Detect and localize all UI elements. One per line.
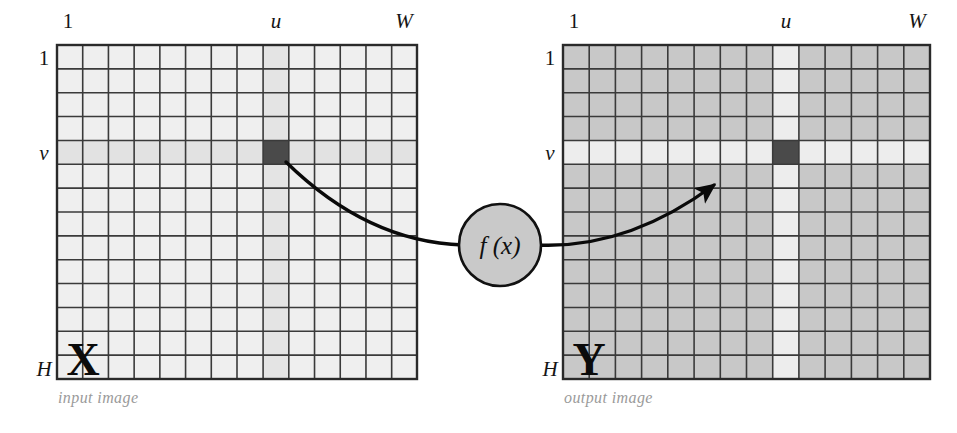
input-left-top-label: 1 [39, 46, 50, 70]
input-left-bottom-label: H [35, 357, 53, 381]
output-top-left-label: 1 [569, 9, 580, 33]
input-panel: 1 u W 1 v H X input image [35, 9, 417, 407]
output-left-bottom-label: H [541, 357, 559, 381]
pixel-mapping-diagram: 1 u W 1 v H X input image [0, 0, 957, 433]
figure-root: 1 u W 1 v H X input image [0, 0, 957, 433]
output-selected-pixel[interactable] [773, 140, 799, 164]
output-panel: 1 u W 1 v H Y output image [541, 9, 930, 407]
input-panel-letter: X [66, 334, 99, 385]
output-top-u-label: u [781, 9, 792, 33]
output-left-top-label: 1 [545, 46, 556, 70]
input-caption: input image [58, 389, 138, 407]
input-top-right-label: W [395, 9, 415, 33]
output-panel-letter: Y [572, 334, 605, 385]
output-left-v-label: v [545, 141, 555, 165]
function-node-label: f (x) [480, 232, 521, 260]
input-top-u-label: u [271, 9, 282, 33]
input-top-left-label: 1 [63, 9, 74, 33]
input-left-v-label: v [39, 141, 49, 165]
output-top-right-label: W [908, 9, 928, 33]
output-caption: output image [564, 389, 653, 407]
